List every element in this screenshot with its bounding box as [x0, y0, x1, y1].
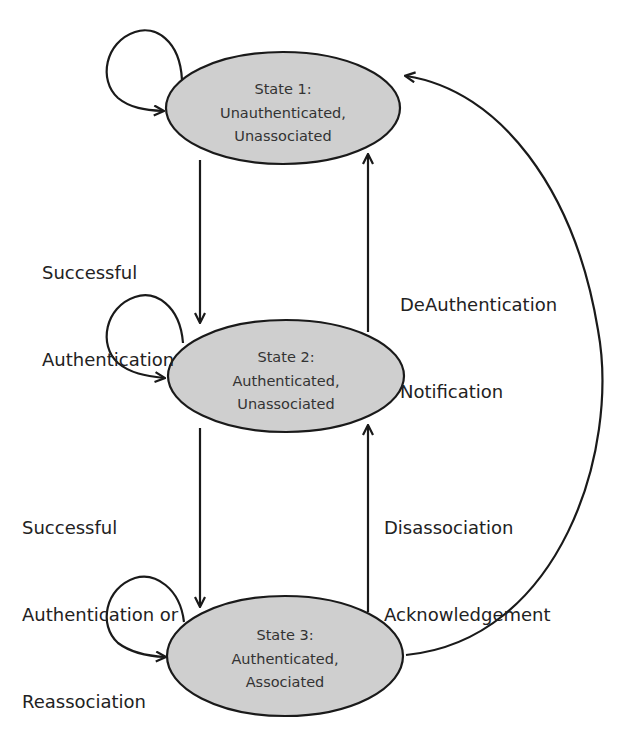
state-1-title: State 1: — [254, 81, 311, 97]
state-1-line2: Unassociated — [234, 128, 331, 144]
label-line: Authentication or — [22, 600, 178, 629]
state-2-title: State 2: — [257, 349, 314, 365]
state-3-title: State 3: — [256, 627, 313, 643]
label-disassociation-acknowledgement: Disassociation Acknowledgement — [384, 455, 551, 658]
label-line: Successful — [42, 258, 174, 287]
state-3-line1: Authenticated, — [231, 651, 338, 667]
label-line: Notification — [400, 377, 480, 406]
state-1: State 1: Unauthenticated, Unassociated — [166, 52, 400, 164]
label-line: Reassociation — [22, 687, 178, 716]
label-deauthentication-notification: DeAuthentication Notification — [320, 232, 480, 435]
state-1-line1: Unauthenticated, — [220, 105, 346, 121]
label-successful-authentication-or-reassociation: Successful Authentication or Reassociati… — [22, 455, 178, 741]
label-line: DeAuthentication — [400, 290, 480, 319]
state-3: State 3: Authenticated, Associated — [167, 596, 403, 716]
label-line: Disassociation — [384, 513, 551, 542]
label-line: Acknowledgement — [384, 600, 551, 629]
state-3-line2: Associated — [246, 674, 325, 690]
label-line: Authentication — [42, 345, 174, 374]
label-successful-authentication: Successful Authentication — [42, 200, 174, 403]
label-line: Successful — [22, 513, 178, 542]
